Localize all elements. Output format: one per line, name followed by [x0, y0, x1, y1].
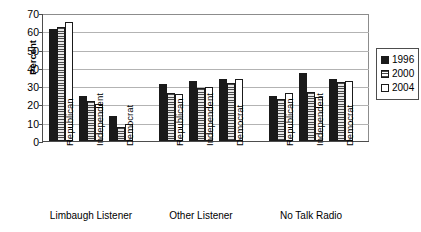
- bar: [49, 29, 57, 141]
- category-label: Democrat: [125, 105, 135, 146]
- legend: 199620002004: [376, 48, 419, 100]
- bar: [269, 96, 277, 141]
- white-swatch: [381, 84, 389, 92]
- group-label: Other Listener: [169, 211, 232, 221]
- y-tick-label: 60: [27, 27, 39, 38]
- y-tick-label: 10: [27, 118, 39, 129]
- legend-label: 2000: [392, 69, 414, 79]
- bar: [159, 84, 167, 141]
- y-tick-label: 0: [33, 137, 39, 148]
- group-label: Limbaugh Listener: [50, 211, 132, 221]
- y-tick-label: 30: [27, 82, 39, 93]
- y-tick-label: 50: [27, 45, 39, 56]
- striped-gray-swatch: [381, 70, 389, 78]
- bar: [189, 81, 197, 141]
- legend-label: 1996: [392, 55, 414, 65]
- category-label: Independent: [315, 93, 325, 146]
- category-label: Republican: [65, 98, 75, 146]
- bar-chart: Percent 706050403020100 RepublicanIndepe…: [0, 0, 421, 232]
- solid-black-swatch: [381, 56, 389, 64]
- category-label: Independent: [95, 93, 105, 146]
- bar: [219, 79, 227, 141]
- bar: [329, 79, 337, 141]
- y-tick-mark: [39, 142, 43, 143]
- category-label: Republican: [175, 98, 185, 146]
- y-tick-label: 20: [27, 100, 39, 111]
- category-label: Independent: [205, 93, 215, 146]
- bar: [109, 116, 117, 141]
- legend-item: 2000: [381, 67, 414, 81]
- category-label: Republican: [285, 98, 295, 146]
- y-tick-label: 40: [27, 64, 39, 75]
- category-label: Democrat: [235, 105, 245, 146]
- legend-item: 1996: [381, 53, 414, 67]
- y-tick-label: 70: [27, 9, 39, 20]
- legend-item: 2004: [381, 81, 414, 95]
- bar: [79, 96, 87, 141]
- group-label: No Talk Radio: [280, 211, 342, 221]
- legend-label: 2004: [392, 83, 414, 93]
- category-label: Democrat: [345, 105, 355, 146]
- bar: [299, 73, 307, 141]
